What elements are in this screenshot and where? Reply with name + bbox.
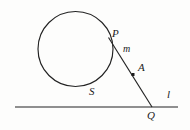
line-m-tangent [109, 38, 153, 108]
geometry-figure: P m A S Q l [0, 0, 190, 130]
label-line-m: m [123, 44, 130, 54]
circle-s [38, 12, 113, 87]
geometry-canvas [0, 0, 190, 130]
label-point-a: A [138, 62, 145, 73]
point-a-marker [132, 73, 135, 76]
label-point-q: Q [147, 110, 155, 121]
label-line-l: l [167, 89, 170, 100]
label-point-p: P [112, 28, 119, 39]
label-circle-s: S [89, 86, 95, 97]
